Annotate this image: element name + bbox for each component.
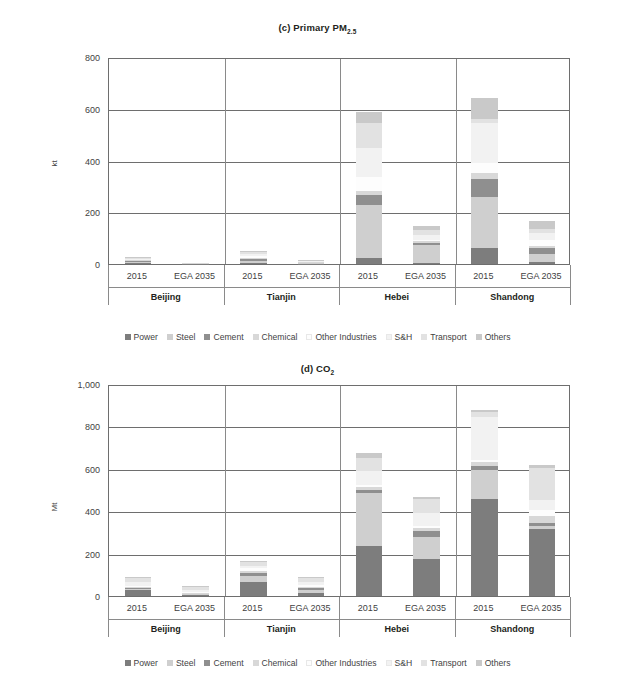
x-tick-label: EGA 2035 [512, 603, 570, 613]
chart-c-legend: PowerSteelCementChemicalOther Industries… [0, 333, 635, 342]
gridline [109, 427, 569, 428]
stacked-bar[interactable] [298, 577, 325, 597]
group-separator [340, 386, 341, 596]
legend-item[interactable]: Others [476, 333, 511, 342]
bar-segment [298, 593, 325, 596]
x-tick-label: EGA 2035 [166, 271, 224, 281]
legend-label: Other Industries [315, 659, 376, 668]
stacked-bar[interactable] [413, 226, 440, 264]
stacked-bar[interactable] [356, 112, 383, 264]
legend-item[interactable]: Other Industries [306, 333, 376, 342]
bar-segment [413, 499, 440, 513]
y-tick-label: 800 [0, 422, 100, 432]
stacked-bar[interactable] [182, 586, 209, 596]
bar-segment [356, 112, 383, 122]
y-tick-label: 400 [0, 157, 100, 167]
legend-swatch [476, 660, 482, 666]
bar-segment [471, 163, 498, 173]
x-axis-group-separator [108, 597, 109, 637]
bar-segment [356, 123, 383, 149]
legend-item[interactable]: Chemical [253, 333, 298, 342]
chart-c-title-subscript: 2.5 [347, 28, 357, 35]
stacked-bar[interactable] [125, 257, 152, 264]
stacked-bar[interactable] [125, 577, 152, 596]
legend-item[interactable]: Others [476, 659, 511, 668]
legend-label: S&H [395, 659, 413, 668]
legend-item[interactable]: S&H [386, 333, 413, 342]
bar-segment [471, 98, 498, 119]
bar-segment [413, 537, 440, 559]
bar-segment [471, 499, 498, 596]
bar-segment [182, 595, 209, 596]
legend-label: S&H [395, 333, 413, 342]
legend-label: Chemical [262, 333, 298, 342]
stacked-bar[interactable] [413, 497, 440, 596]
stacked-bar[interactable] [529, 465, 556, 596]
bar-segment [413, 245, 440, 263]
stacked-bar[interactable] [298, 260, 325, 264]
x-axis-group-separator [108, 265, 109, 305]
legend-label: Cement [213, 333, 243, 342]
stacked-bar[interactable] [471, 98, 498, 264]
bar-segment [471, 179, 498, 197]
legend-item[interactable]: Steel [167, 333, 196, 342]
bar-segment [356, 195, 383, 205]
group-separator [340, 59, 341, 264]
chart-c-title-text: (c) Primary PM [278, 22, 347, 33]
x-tick-label: 2015 [224, 271, 282, 281]
bar-segment [471, 417, 498, 459]
gridline [109, 470, 569, 471]
legend-item[interactable]: Transport [421, 333, 466, 342]
legend-item[interactable]: Steel [167, 659, 196, 668]
bar-segment [529, 221, 556, 229]
stacked-bar[interactable] [182, 263, 209, 264]
gridline [109, 555, 569, 556]
legend-swatch [386, 334, 392, 340]
legend-item[interactable]: Power [125, 333, 158, 342]
legend-label: Others [485, 333, 511, 342]
x-axis-group-label: Hebei [339, 624, 455, 634]
legend-item[interactable]: S&H [386, 659, 413, 668]
stacked-bar[interactable] [529, 221, 556, 264]
x-axis-group-label: Beijing [108, 624, 224, 634]
bar-segment [529, 468, 556, 499]
bar-segment [529, 529, 556, 596]
chart-d-plot [108, 385, 570, 597]
bar-segment [471, 197, 498, 249]
x-tick-label: EGA 2035 [397, 603, 455, 613]
stacked-bar[interactable] [240, 251, 267, 264]
bar-segment [240, 582, 267, 596]
legend-item[interactable]: Other Industries [306, 659, 376, 668]
legend-swatch [253, 660, 259, 666]
legend-swatch [306, 334, 312, 340]
x-axis-group-separator [224, 597, 225, 637]
bar-segment [529, 254, 556, 262]
bar-segment [471, 123, 498, 163]
legend-item[interactable]: Chemical [253, 659, 298, 668]
stacked-bar[interactable] [356, 453, 383, 596]
chart-d-title-text: (d) CO [301, 363, 331, 374]
stacked-bar[interactable] [471, 409, 498, 596]
stacked-bar[interactable] [240, 561, 267, 596]
x-axis-group-separator [224, 265, 225, 305]
legend-label: Steel [176, 659, 196, 668]
legend-label: Cement [213, 659, 243, 668]
legend-item[interactable]: Cement [204, 659, 243, 668]
bar-segment [356, 458, 383, 471]
x-axis-group-label: Shandong [455, 292, 571, 302]
legend-item[interactable]: Cement [204, 333, 243, 342]
bar-segment [125, 263, 152, 264]
x-tick-label: 2015 [455, 603, 513, 613]
x-axis-group-separator [455, 597, 456, 637]
bar-segment [471, 248, 498, 264]
legend-label: Power [134, 333, 158, 342]
legend-item[interactable]: Transport [421, 659, 466, 668]
legend-label: Other Industries [315, 333, 376, 342]
x-axis-group-separator [570, 265, 571, 305]
x-axis-group-separator [455, 265, 456, 305]
x-axis-group-separator [570, 597, 571, 637]
x-tick-label: 2015 [108, 271, 166, 281]
legend-item[interactable]: Power [125, 659, 158, 668]
gridline [109, 110, 569, 111]
chart-d-title: (d) CO2 [0, 363, 635, 376]
